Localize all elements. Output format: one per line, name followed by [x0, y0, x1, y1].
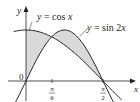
cos-label-leader: [29, 22, 32, 30]
tick-label-pi-2: π 2: [100, 85, 106, 102]
y-axis-arrow-icon: [24, 6, 29, 12]
origin-label: 0: [19, 72, 24, 82]
x-axis-arrow-icon: [130, 79, 136, 84]
graph-figure: y x 0 y = cos x y = sin 2x π 6 π 2: [0, 0, 140, 102]
svg-text:π: π: [50, 85, 54, 93]
sin2x-curve-label: y = sin 2x: [86, 22, 126, 33]
svg-text:2: 2: [101, 94, 105, 102]
y-axis-label: y: [16, 5, 22, 16]
x-axis-label: x: [133, 84, 138, 94]
cos-curve-label: y = cos x: [36, 11, 73, 22]
svg-text:π: π: [101, 85, 105, 93]
svg-text:6: 6: [50, 94, 54, 102]
shaded-region: [26, 30, 103, 81]
tick-label-pi-6: π 6: [49, 85, 55, 102]
